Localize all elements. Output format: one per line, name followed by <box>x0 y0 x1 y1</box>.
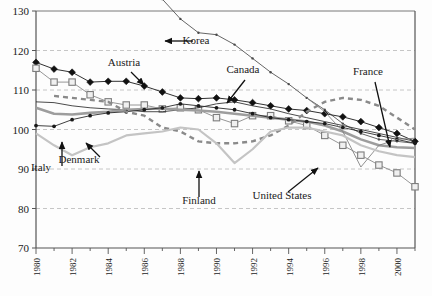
y-tick-label: 110 <box>13 84 30 96</box>
y-tick-label: 90 <box>18 163 30 175</box>
x-tick-label: 1982 <box>68 258 78 276</box>
x-tick-label: 1994 <box>285 258 295 277</box>
x-tick-label: 1990 <box>212 258 222 277</box>
annotation-label-united-states: United States <box>253 189 312 201</box>
y-tick-label: 80 <box>18 203 30 215</box>
y-tick-label: 120 <box>13 45 30 57</box>
x-tick-label: 1986 <box>140 258 150 277</box>
x-tick-label: 1988 <box>176 258 186 277</box>
line-chart: 708090100110120130 198019821984198619881… <box>0 0 432 296</box>
y-tick-label: 100 <box>13 124 30 136</box>
x-tick-label: 1992 <box>249 258 259 276</box>
annotation-label-italy: Italy <box>31 161 52 173</box>
y-tick-label: 70 <box>18 242 30 254</box>
chart-figure: 708090100110120130 198019821984198619881… <box>0 0 432 296</box>
x-tick-label: 1984 <box>104 258 114 277</box>
annotation-label-canada: Canada <box>227 63 260 75</box>
x-tick-label: 1996 <box>321 258 331 277</box>
annotation-label-denmark: Denmark <box>59 153 100 165</box>
x-tick-label: 2000 <box>393 258 403 277</box>
y-tick-label: 130 <box>13 5 30 17</box>
annotation-label-france: France <box>353 65 383 77</box>
x-tick-label: 1998 <box>357 258 367 277</box>
annotation-label-austria: Austria <box>108 56 141 68</box>
annotation-label-korea: Korea <box>183 34 210 46</box>
x-tick-label: 1980 <box>32 258 42 277</box>
